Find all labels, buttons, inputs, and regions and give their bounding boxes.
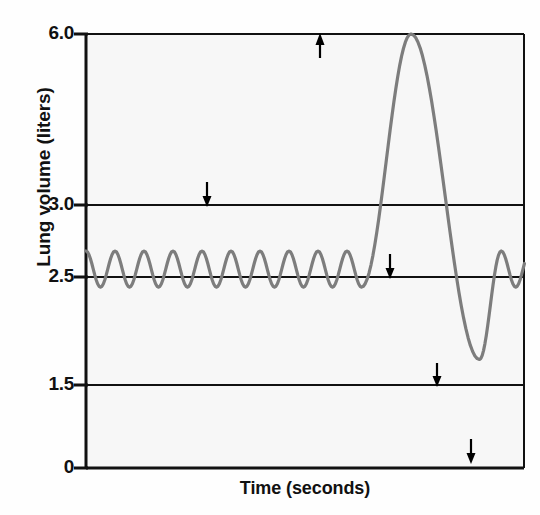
spirogram-figure: Lung volume (liters) 6.0 3.0 2.5 1.5 0 A… [0,0,540,515]
plot-area-background [86,34,524,468]
plot-svg [0,0,540,515]
